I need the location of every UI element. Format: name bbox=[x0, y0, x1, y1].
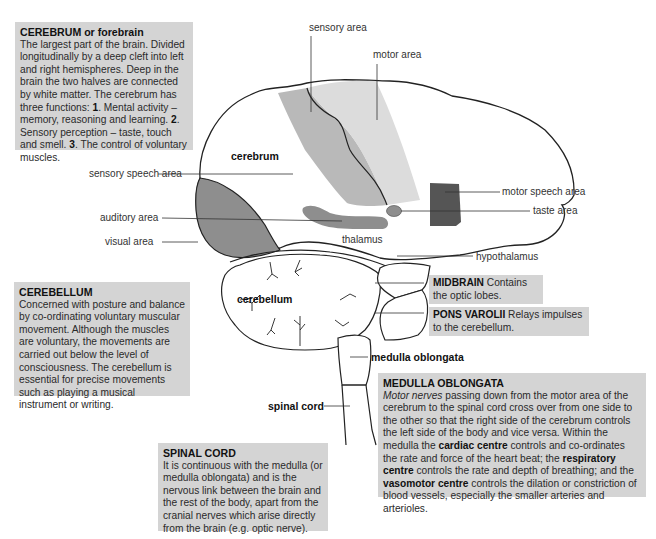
label-visual-area: visual area bbox=[105, 236, 153, 247]
medulla-text-c: controls the rate and depth of breathing… bbox=[414, 465, 634, 476]
label-auditory-area: auditory area bbox=[100, 212, 158, 223]
label-taste-area: taste area bbox=[533, 205, 577, 216]
cerebrum-box-title: CEREBRUM or forebrain bbox=[20, 26, 188, 39]
cerebellum-text: Concerned with posture and balance by co… bbox=[19, 299, 185, 411]
medulla-outline bbox=[338, 335, 371, 385]
pons-outline bbox=[380, 290, 428, 340]
label-hypothalamus: hypothalamus bbox=[476, 251, 538, 262]
taste-area-region bbox=[387, 206, 402, 217]
cardiac-centre: cardiac centre bbox=[439, 440, 508, 451]
medulla-box-title: MEDULLA OBLONGATA bbox=[383, 377, 641, 390]
label-sensory-speech-area: sensory speech area bbox=[89, 168, 182, 179]
pons-title: PONS VAROLII bbox=[433, 309, 505, 320]
cerebellum-info-box: CEREBELLUM Concerned with posture and ba… bbox=[14, 282, 190, 396]
pons-info-box: PONS VAROLII Relays impulses to the cere… bbox=[429, 307, 589, 336]
spinal-box-title: SPINAL CORD bbox=[163, 447, 323, 460]
spinal-cord-info-box: SPINAL CORD It is continuous with the me… bbox=[158, 443, 328, 531]
label-spinal-cord: spinal cord bbox=[268, 400, 324, 412]
spinal-text: It is continuous with the medulla (or me… bbox=[163, 460, 323, 534]
midbrain-info-box: MIDBRAIN Contains the optic lobes. bbox=[429, 275, 543, 304]
label-cerebrum: cerebrum bbox=[231, 150, 279, 162]
cerebellum-box-title: CEREBELLUM bbox=[19, 286, 185, 299]
label-motor-speech-area: motor speech area bbox=[502, 186, 585, 197]
label-thalamus: thalamus bbox=[342, 234, 383, 245]
label-medulla-oblongata: medulla oblongata bbox=[371, 351, 464, 363]
label-motor-area: motor area bbox=[373, 49, 421, 60]
medulla-info-box: MEDULLA OBLONGATA Motor nerves passing d… bbox=[378, 373, 646, 497]
motor-speech-area-region bbox=[430, 183, 461, 226]
spinal-cord-outline bbox=[342, 385, 376, 445]
midbrain-title: MIDBRAIN bbox=[433, 277, 484, 288]
cerebrum-info-box: CEREBRUM or forebrain The largest part o… bbox=[15, 22, 193, 150]
motor-nerves-italic: Motor nerves bbox=[383, 390, 442, 401]
label-cerebellum: cerebellum bbox=[237, 293, 292, 305]
vasomotor-centre: vasomotor centre bbox=[383, 478, 469, 489]
label-sensory-area: sensory area bbox=[309, 22, 367, 33]
